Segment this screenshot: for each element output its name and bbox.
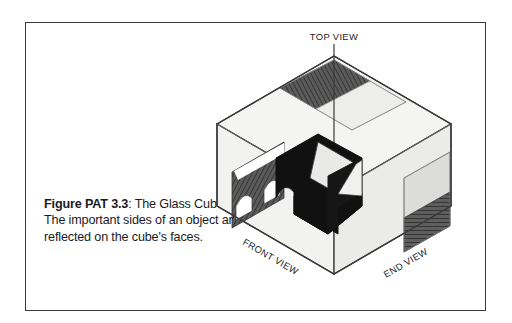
- figure-root: Figure PAT 3.3: The Glass Cube. The impo…: [0, 0, 512, 323]
- glass-cube-diagram: TOP VIEW FRONT VIEW END VIEW: [210, 30, 490, 302]
- label-top-view: TOP VIEW: [310, 31, 358, 42]
- caption-label: Figure PAT 3.3: [44, 197, 128, 211]
